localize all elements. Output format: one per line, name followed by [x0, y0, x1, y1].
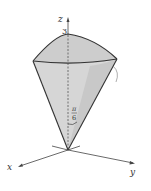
cone — [33, 34, 117, 150]
z-axis-label: z — [57, 14, 63, 24]
angle-denominator: 6 — [72, 114, 76, 122]
x-axis — [20, 150, 68, 166]
y-axis-arrow-icon — [130, 161, 136, 165]
z-intercept-label: 3 — [62, 27, 67, 36]
z-axis-arrow-icon — [67, 17, 70, 22]
y-axis — [68, 150, 133, 163]
cone-diagram: z x y 3 π 6 — [0, 0, 151, 191]
y-axis-label: y — [129, 167, 136, 177]
x-axis-arrow-icon — [18, 164, 23, 168]
angle-numerator: π — [71, 105, 77, 113]
x-axis-label: x — [7, 162, 12, 172]
angle-label: π 6 — [71, 105, 77, 122]
